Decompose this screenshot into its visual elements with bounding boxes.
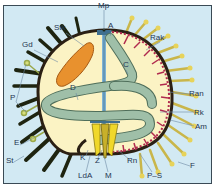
label-a: A bbox=[108, 22, 113, 30]
label-gd: Gd bbox=[22, 41, 33, 49]
label-d: D bbox=[70, 84, 76, 92]
label-ran: Ran bbox=[189, 90, 204, 98]
label-lda: LdA bbox=[78, 172, 92, 180]
label-f: F bbox=[190, 162, 195, 170]
label-mp: Mp bbox=[98, 2, 109, 10]
label-p: P bbox=[10, 94, 15, 102]
label-rk: Rk bbox=[194, 109, 204, 117]
label-rn: Rn bbox=[127, 157, 137, 165]
label-stk: Stk bbox=[54, 24, 66, 32]
label-k: K bbox=[80, 154, 85, 162]
label-st: St bbox=[6, 157, 14, 165]
label-z: Z bbox=[95, 157, 100, 165]
label-m: M bbox=[105, 172, 112, 180]
label-p-s: P–S bbox=[147, 172, 162, 180]
label-e: E bbox=[14, 139, 19, 147]
label-am: Am bbox=[195, 123, 207, 131]
label-c: C bbox=[123, 61, 129, 69]
label-rak: Rak bbox=[150, 34, 164, 42]
